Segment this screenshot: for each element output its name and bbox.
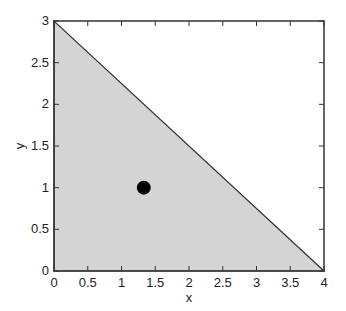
y-tick-label: 0: [42, 263, 49, 278]
y-tick-labels: 00.511.522.53: [31, 13, 49, 278]
x-tick-labels: 00.511.522.533.54: [50, 275, 327, 290]
y-tick-label: 2.5: [31, 55, 49, 70]
x-tick-label: 2.5: [214, 275, 232, 290]
triangle-polygon: [54, 21, 324, 271]
x-tick-label: 4: [320, 275, 327, 290]
y-tick-label: 0.5: [31, 221, 49, 236]
x-tick-label: 3: [253, 275, 260, 290]
y-tick-label: 3: [42, 13, 49, 28]
x-tick-label: 0: [50, 275, 57, 290]
x-tick-label: 1: [118, 275, 125, 290]
x-tick-label: 1.5: [146, 275, 164, 290]
data-point-marker: [137, 181, 151, 195]
x-tick-label: 0.5: [79, 275, 97, 290]
y-axis-label: y: [12, 142, 27, 149]
x-axis-label: x: [186, 290, 193, 305]
shaded-triangle-region: [54, 21, 324, 271]
y-tick-label: 1.5: [31, 138, 49, 153]
x-tick-label: 2: [185, 275, 192, 290]
y-tick-label: 1: [42, 180, 49, 195]
y-tick-label: 2: [42, 96, 49, 111]
chart-canvas: 00.511.522.533.54 00.511.522.53 x y: [0, 0, 346, 311]
data-points: [137, 181, 151, 195]
x-tick-label: 3.5: [281, 275, 299, 290]
